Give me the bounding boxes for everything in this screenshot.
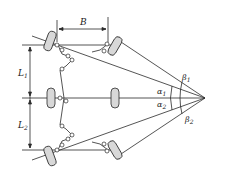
linkage-front xyxy=(58,45,72,98)
middle-right-wheel xyxy=(111,88,119,108)
rear-left-wheel xyxy=(43,145,57,167)
label-alpha1: α1 xyxy=(157,87,166,97)
label-l1: L1 xyxy=(17,68,28,79)
middle-left-wheel xyxy=(47,88,55,108)
label-beta2: β2 xyxy=(184,115,194,125)
label-beta1: β1 xyxy=(181,73,190,83)
steering-diagram: B L1 L2 α1 α2 β1 β2 xyxy=(0,0,226,177)
front-right-wheel xyxy=(107,35,124,56)
linkage-joints xyxy=(55,42,109,153)
label-b: B xyxy=(79,17,87,27)
label-l2: L2 xyxy=(17,120,28,131)
label-alpha2: α2 xyxy=(157,100,166,110)
linkage-rear xyxy=(58,98,72,150)
